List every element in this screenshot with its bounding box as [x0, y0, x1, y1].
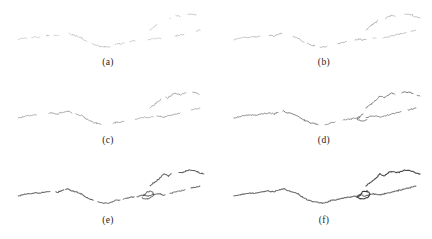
contour-fragment [179, 170, 204, 174]
contour-fragment [123, 197, 134, 199]
figure-container: (a) (b) (c) (d) (e) (f) [0, 0, 432, 239]
panel-c-caption: (c) [0, 134, 216, 146]
contour-fragment [150, 24, 158, 30]
panel-a-contour-svg [0, 0, 216, 62]
contour-fragment [46, 35, 49, 36]
contour-fragment [191, 186, 200, 188]
contour-fragment [92, 44, 110, 48]
contour-fragment [234, 36, 260, 40]
contour-fragment [130, 41, 135, 42]
contour-fragment [234, 112, 278, 118]
contour-fragment [366, 20, 378, 30]
contour-fragment [408, 108, 416, 110]
contour-fragment [325, 122, 335, 125]
contour-fragment [98, 200, 120, 203]
contour-fragment [196, 30, 200, 32]
contour-fragment [383, 33, 406, 39]
contour-fragment [66, 189, 93, 200]
contour-fragment [69, 33, 87, 41]
contour-fragment [366, 93, 395, 108]
panel-e-contour-svg [0, 156, 216, 218]
figure-panel-c: (c) [0, 78, 216, 157]
contour-fragment [307, 43, 315, 46]
contour-fragment [366, 170, 420, 186]
contour-fragment [150, 174, 171, 186]
contour-fragment [355, 39, 366, 41]
contour-fragment [115, 43, 124, 45]
contour-fragment [170, 18, 171, 19]
contour-fragment [170, 190, 185, 194]
contour-fragment [150, 99, 161, 108]
contour-fragment [49, 111, 72, 114]
panel-a-plot [0, 0, 216, 62]
contour-fragment [166, 93, 186, 99]
contour-fragment [76, 114, 101, 125]
panel-b-plot [216, 0, 432, 62]
panel-a-caption: (a) [0, 56, 216, 68]
panel-c-contour-svg [0, 78, 216, 140]
contour-fragment [113, 121, 124, 123]
panel-f-caption: (f) [216, 214, 432, 226]
contour-fragment [269, 33, 282, 36]
contour-fragment [157, 113, 180, 118]
panel-f-plot [216, 156, 432, 218]
contour-fragment [357, 118, 367, 121]
panel-e-caption: (e) [0, 214, 216, 226]
panel-d-caption: (d) [216, 134, 432, 146]
figure-panel-f: (f) [216, 156, 432, 235]
contour-fragment [366, 112, 401, 118]
panel-d-contour-svg [216, 78, 432, 140]
panel-c-plot [0, 78, 216, 140]
contour-fragment [54, 35, 59, 36]
contour-fragment [188, 14, 196, 15]
panel-b-caption: (b) [216, 56, 432, 68]
figure-panel-b: (b) [216, 0, 432, 79]
panel-d-plot [216, 78, 432, 140]
contour-fragment [234, 186, 416, 203]
contour-fragment [18, 38, 27, 40]
panel-f-contour-svg [216, 156, 432, 218]
contour-fragment [175, 34, 184, 36]
contour-fragment [320, 46, 327, 47]
contour-fragment [32, 37, 40, 38]
contour-fragment [405, 14, 420, 18]
contour-fragment [135, 116, 153, 119]
contour-fragment [283, 111, 318, 125]
figure-panel-e: (e) [0, 156, 216, 235]
contour-fragment [386, 15, 396, 19]
contour-fragment [56, 190, 64, 193]
contour-fragment [402, 92, 413, 94]
contour-fragment [359, 114, 363, 118]
contour-fragment [193, 92, 199, 95]
contour-fragment [338, 41, 346, 43]
contour-fragment [176, 15, 180, 17]
contour-fragment [18, 115, 36, 119]
contour-fragment [417, 95, 420, 96]
panel-e-plot [0, 156, 216, 218]
figure-panel-a: (a) [0, 0, 216, 79]
contour-fragment [137, 194, 165, 197]
contour-fragment [148, 37, 161, 40]
contour-fragment [293, 36, 304, 42]
contour-fragment [18, 191, 50, 196]
contour-fragment [411, 30, 416, 31]
panel-b-contour-svg [216, 0, 432, 62]
figure-panel-d: (d) [216, 78, 432, 157]
contour-fragment [191, 108, 200, 110]
